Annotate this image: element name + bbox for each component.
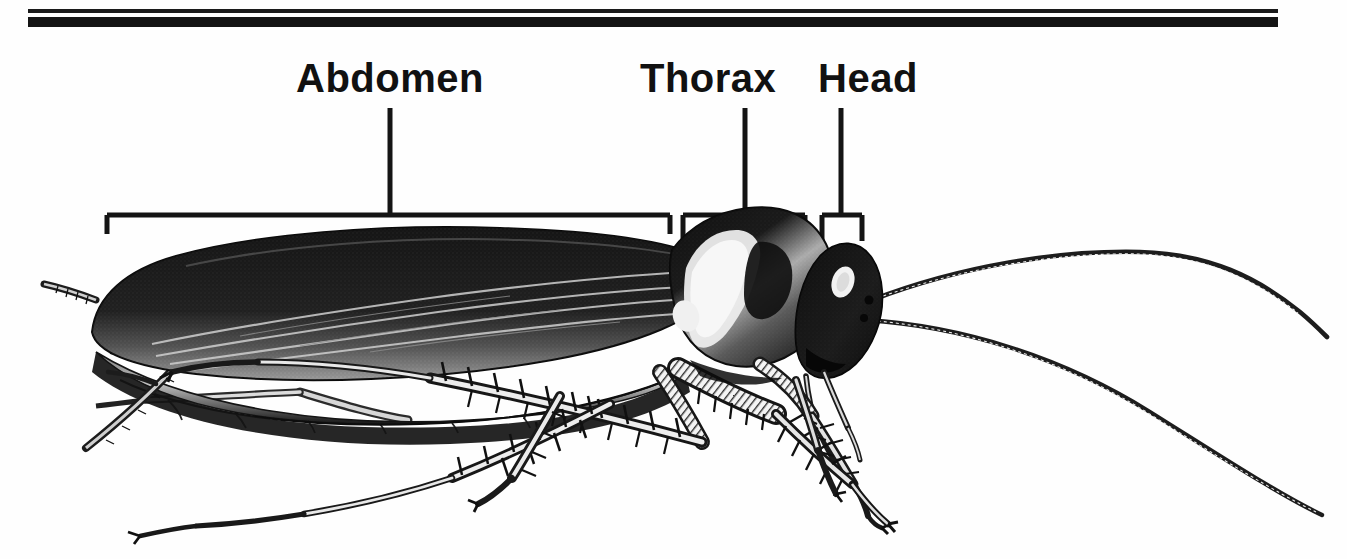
cockroach-illustration [0,0,1347,559]
antenna-left [866,320,1322,515]
tegmina-forewing [92,227,722,380]
cockroach-anatomy-figure: Abdomen Thorax Head [0,0,1347,559]
antenna-right [872,252,1327,337]
